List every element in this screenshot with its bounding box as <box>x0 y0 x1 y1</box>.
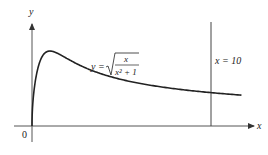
origin-label: 0 <box>22 129 27 140</box>
function-label-denominator: x² + 1 <box>114 67 137 77</box>
figure: y x 0 x = 10 y = x x² + 1 <box>0 0 268 155</box>
function-curve <box>32 51 241 126</box>
function-label: y = x x² + 1 <box>90 53 139 77</box>
function-label-numerator: x <box>123 54 128 64</box>
x-axis-label: x <box>256 120 262 131</box>
vertical-line-label: x = 10 <box>214 55 241 66</box>
function-label-lhs: y = <box>90 61 105 72</box>
y-axis-label: y <box>28 6 34 17</box>
